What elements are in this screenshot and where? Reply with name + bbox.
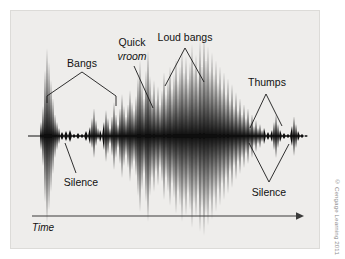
- silence-left-leader: [65, 143, 76, 173]
- silence-right-leader: [249, 143, 289, 182]
- waveform-plot: Bangs Quick vroom Loud bangs Thumps Sile…: [10, 10, 320, 249]
- annotation-vroom: vroom: [117, 50, 146, 62]
- thumps-leader: [250, 94, 282, 128]
- bangs-leader: [47, 72, 116, 106]
- time-axis-label: Time: [32, 222, 55, 233]
- annotation-silence-left: Silence: [64, 176, 99, 188]
- copyright-credit: © Cengage Learning 2011: [330, 159, 344, 255]
- annotation-loud-bangs: Loud bangs: [158, 31, 213, 43]
- loud-bangs-leader: [165, 48, 204, 86]
- annotation-bangs: Bangs: [67, 57, 97, 69]
- waveform-figure: Bangs Quick vroom Loud bangs Thumps Sile…: [0, 0, 345, 259]
- time-axis: [32, 212, 304, 220]
- annotation-thumps: Thumps: [248, 76, 286, 88]
- annotation-quick: Quick: [119, 36, 147, 48]
- annotation-silence-right: Silence: [252, 186, 287, 198]
- time-axis-arrowhead: [296, 212, 304, 220]
